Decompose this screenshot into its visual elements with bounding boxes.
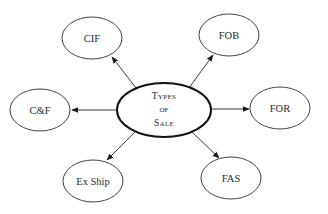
node-exship-label: Ex Ship xyxy=(76,176,110,187)
node-fob-label: FOB xyxy=(219,30,239,41)
node-cf: C&F xyxy=(10,89,70,131)
center-line-1: Types xyxy=(152,91,176,101)
types-of-sale-diagram: Types of Sale CIF FOB C&F FOR Ex Ship FA… xyxy=(0,0,328,214)
node-for-label: FOR xyxy=(270,103,290,114)
node-fob: FOB xyxy=(199,14,259,56)
node-cf-label: C&F xyxy=(29,105,50,116)
node-for: FOR xyxy=(250,87,310,129)
edge-to-fas xyxy=(191,131,219,158)
node-fas: FAS xyxy=(201,157,261,199)
center-node: Types of Sale xyxy=(117,83,211,137)
center-line-3: Sale xyxy=(154,118,174,128)
edge-to-fob xyxy=(189,55,213,88)
center-line-2: of xyxy=(160,104,169,114)
node-cif-label: CIF xyxy=(84,33,101,44)
edge-to-cif xyxy=(112,57,136,88)
node-cif: CIF xyxy=(62,17,122,59)
edge-to-exship xyxy=(107,131,136,160)
node-fas-label: FAS xyxy=(222,173,241,184)
node-exship: Ex Ship xyxy=(63,160,123,202)
